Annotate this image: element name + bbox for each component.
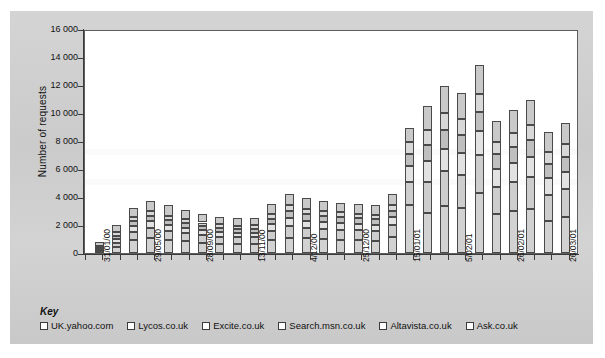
- bar-segment: [215, 237, 224, 244]
- bar-segment: [544, 152, 553, 165]
- bar-segment: [215, 244, 224, 253]
- x-tick-label: 31/01/00: [102, 229, 112, 262]
- legend-item[interactable]: Excite.co.uk: [202, 320, 264, 331]
- bar-segment: [423, 106, 432, 130]
- bar-segment: [405, 142, 414, 153]
- y-tick-label: 6 000: [55, 165, 78, 174]
- x-tick-mark: [275, 255, 276, 260]
- legend-item[interactable]: Search.msn.co.uk: [278, 320, 365, 331]
- bar-segment: [215, 224, 224, 228]
- bar-segment: [509, 163, 518, 182]
- bar-segment: [164, 225, 173, 231]
- bar-segment: [475, 131, 484, 155]
- bar-segment: [440, 113, 449, 130]
- bar-segment: [181, 241, 190, 253]
- bar-segment: [112, 232, 121, 235]
- bar-segment: [405, 128, 414, 142]
- y-tick-mark: [78, 114, 83, 115]
- bar-segment: [388, 217, 397, 225]
- bar-segment: [233, 229, 242, 233]
- bar-segment: [112, 239, 121, 243]
- y-tick-mark: [78, 198, 83, 199]
- x-tick-mark: [258, 255, 259, 260]
- bar-column: [215, 217, 224, 253]
- bar-segment: [509, 182, 518, 211]
- y-tick-mark: [78, 30, 83, 31]
- bar-segment: [457, 153, 466, 175]
- bar-segment: [388, 194, 397, 205]
- bar-segment: [336, 217, 345, 223]
- bar-segment: [112, 225, 121, 232]
- bar-segment: [233, 218, 242, 226]
- legend-swatch-icon: [127, 322, 135, 330]
- bar-segment: [509, 147, 518, 163]
- bar-segment: [526, 177, 535, 209]
- bar-segment: [285, 238, 294, 253]
- bar-segment: [164, 205, 173, 216]
- x-tick-mark: [482, 255, 483, 260]
- bar-column: [388, 194, 397, 253]
- y-tick-mark: [78, 170, 83, 171]
- bar-segment: [371, 225, 380, 231]
- bar-segment: [440, 86, 449, 113]
- bar-column: [423, 106, 432, 253]
- legend-label: Search.msn.co.uk: [289, 320, 365, 331]
- bar-segment: [388, 237, 397, 253]
- bar-segment: [164, 240, 173, 253]
- bar-column: [440, 86, 449, 253]
- legend-swatch-icon: [379, 322, 387, 330]
- x-tick-mark: [344, 255, 345, 260]
- bar-segment: [371, 219, 380, 224]
- bar-segment: [233, 226, 242, 229]
- bar-segment: [146, 201, 155, 211]
- bar-segment: [371, 215, 380, 220]
- bar-segment: [267, 214, 276, 219]
- bar-segment: [319, 211, 328, 216]
- bar-segment: [233, 233, 242, 237]
- bar-segment: [181, 219, 190, 223]
- y-tick-label: 10 000: [50, 109, 78, 118]
- legend-swatch-icon: [40, 322, 48, 330]
- x-tick-label: 25/12/00: [361, 229, 371, 262]
- bar-segment: [475, 112, 484, 132]
- x-tick-mark: [361, 255, 362, 260]
- bar-segment: [181, 210, 190, 220]
- bar-column: [164, 205, 173, 253]
- bar-segment: [388, 205, 397, 211]
- bar-segment: [492, 169, 501, 187]
- y-tick-label: 4 000: [55, 193, 78, 202]
- bar-segment: [181, 233, 190, 241]
- x-tick-mark: [448, 255, 449, 260]
- bar-segment: [371, 205, 380, 214]
- bar-segment: [146, 221, 155, 227]
- bar-column: [129, 208, 138, 253]
- bar-segment: [129, 240, 138, 253]
- x-tick-mark: [206, 255, 207, 260]
- bar-segment: [198, 214, 207, 223]
- bar-segment: [492, 121, 501, 141]
- bar-segment: [267, 204, 276, 214]
- bar-segment: [388, 211, 397, 218]
- plot-area: [84, 30, 578, 254]
- bar-segment: [475, 65, 484, 94]
- bar-segment: [544, 195, 553, 221]
- y-tick-mark: [78, 226, 83, 227]
- bar-segment: [302, 198, 311, 209]
- x-tick-mark: [310, 255, 311, 260]
- legend-item[interactable]: UK.yahoo.com: [40, 320, 113, 331]
- bar-segment: [215, 228, 224, 232]
- bar-segment: [129, 217, 138, 221]
- bar-column: [267, 204, 276, 253]
- bar-column: [319, 201, 328, 253]
- bar-segment: [526, 140, 535, 157]
- legend-item[interactable]: Ask.co.uk: [466, 320, 518, 331]
- bar-segment: [285, 226, 294, 238]
- bar-column: [526, 100, 535, 253]
- bar-segment: [285, 194, 294, 205]
- y-tick-label: 16 000: [50, 25, 78, 34]
- bar-segment: [405, 166, 414, 181]
- bar-segment: [285, 218, 294, 226]
- legend-item[interactable]: Lycos.co.uk: [127, 320, 188, 331]
- legend-swatch-icon: [466, 322, 474, 330]
- legend-item[interactable]: Altavista.co.uk: [379, 320, 451, 331]
